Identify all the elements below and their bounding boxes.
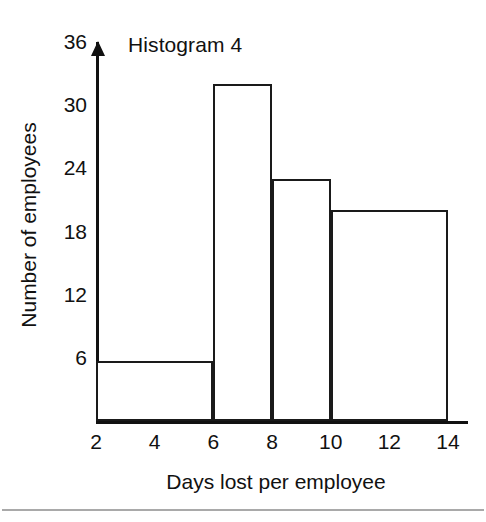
x-axis-tick-label: 2	[90, 430, 102, 454]
x-axis-line	[96, 421, 468, 424]
x-axis-label: Days lost per employee	[96, 470, 456, 494]
page-bottom-rule	[2, 509, 484, 511]
y-axis-tick-label: 18	[64, 220, 87, 244]
x-axis-tick-label: 12	[378, 430, 401, 454]
x-axis-tick-label: 4	[149, 430, 161, 454]
y-axis-label: Number of employees	[12, 55, 46, 395]
x-axis-tick-label: 6	[207, 430, 219, 454]
plot-area: 612182430362468101214	[96, 30, 468, 423]
x-axis-tick-label: 14	[436, 430, 459, 454]
x-axis-tick-label: 10	[319, 430, 342, 454]
histogram-bar	[96, 361, 213, 421]
y-axis-tick-label: 36	[64, 30, 87, 54]
histogram-bar	[272, 179, 331, 421]
y-axis-arrow-icon	[91, 41, 105, 56]
y-axis-tick-label: 30	[64, 93, 87, 117]
histogram-bar	[213, 84, 272, 421]
y-axis-tick-label: 24	[64, 156, 87, 180]
histogram-figure: Histogram 4 Number of employees 61218243…	[0, 0, 486, 522]
x-axis-tick-label: 8	[266, 430, 278, 454]
y-axis-tick-label: 6	[75, 346, 87, 370]
y-axis-tick-label: 12	[64, 283, 87, 307]
histogram-bar	[331, 210, 448, 421]
